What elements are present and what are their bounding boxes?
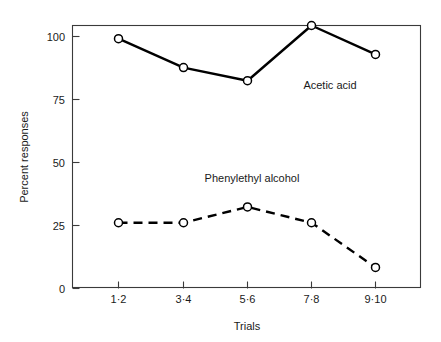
data-point <box>180 219 188 227</box>
data-point <box>308 219 316 227</box>
data-point <box>308 22 316 30</box>
data-point <box>115 219 123 227</box>
y-tick-label-75: 75 <box>53 94 65 106</box>
chart-figure: 100 75 50 25 0 Percent responses 1·2 3·4… <box>0 0 441 342</box>
x-tick-label-3: 5·6 <box>240 293 256 305</box>
data-point <box>244 203 252 211</box>
line-chart-svg: 100 75 50 25 0 Percent responses 1·2 3·4… <box>0 0 441 342</box>
x-axis-title: Trials <box>234 320 261 332</box>
y-tick-label-0: 0 <box>59 283 65 295</box>
x-tick-label-5: 9·10 <box>364 293 386 305</box>
data-point <box>372 263 380 271</box>
y-tick-label-50: 50 <box>53 157 65 169</box>
x-tick-label-1: 1·2 <box>111 293 127 305</box>
y-axis-title: Percent responses <box>18 111 30 203</box>
y-tick-label-25: 25 <box>53 220 65 232</box>
x-tick-label-2: 3·4 <box>176 293 192 305</box>
series-label-phenylethyl-alcohol: Phenylethyl alcohol <box>205 172 300 184</box>
data-point <box>244 77 252 85</box>
x-tick-label-4: 7·8 <box>304 293 320 305</box>
data-point <box>115 35 123 43</box>
series-label-acetic-acid: Acetic acid <box>303 79 356 91</box>
y-tick-label-100: 100 <box>47 31 65 43</box>
data-point <box>180 64 188 72</box>
data-point <box>372 50 380 58</box>
